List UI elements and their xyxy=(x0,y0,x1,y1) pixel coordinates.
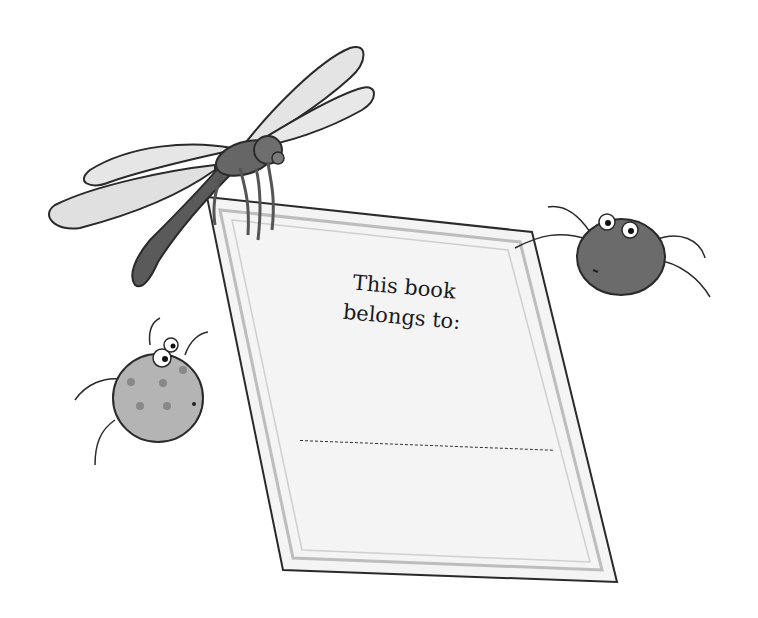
bookplate xyxy=(207,197,617,582)
spotted-bug-icon xyxy=(75,318,208,465)
